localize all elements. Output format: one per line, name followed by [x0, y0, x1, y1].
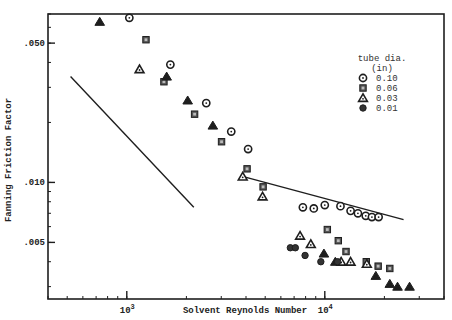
x-axis-title: Solvent Reynolds Number: [183, 306, 307, 316]
filled-triangle-marker: [405, 282, 415, 290]
square-marker: [218, 139, 224, 145]
legend-label: 0.03: [376, 94, 398, 104]
filled-triangle-marker: [319, 249, 329, 257]
filled-triangle-marker: [385, 279, 395, 287]
filled-triangle-marker: [371, 271, 381, 279]
open-triangle-marker: [135, 65, 144, 73]
open-triangle-marker: [238, 172, 247, 180]
filled-triangle-marker: [183, 96, 193, 104]
open-triangle-marker: [258, 192, 267, 200]
y-axis-title: Fanning Friction Factor: [4, 98, 14, 222]
open-circle-marker: [347, 207, 354, 214]
filled-triangle-marker: [95, 17, 105, 25]
series-open-triangle: [135, 65, 371, 267]
square-marker: [143, 37, 149, 43]
legend-label: 0.10: [376, 74, 398, 84]
reference-lines: [71, 76, 404, 219]
y-axis: .050.010.005: [23, 14, 55, 287]
filled-triangle-marker: [162, 72, 172, 80]
open-circle-marker: [126, 14, 133, 21]
open-circle-marker: [321, 201, 328, 208]
square-marker: [324, 226, 330, 232]
open-triangle-marker: [359, 94, 368, 102]
open-triangle-marker: [306, 240, 315, 248]
square-marker: [244, 166, 250, 172]
open-triangle-marker: [296, 232, 305, 240]
square-marker: [191, 111, 197, 117]
open-circle-marker: [228, 128, 235, 135]
open-circle-marker: [337, 203, 344, 210]
square-marker: [375, 263, 381, 269]
open-circle-marker: [203, 100, 210, 107]
legend-label: 0.01: [376, 104, 398, 114]
series-open-circle: [126, 14, 382, 220]
open-circle-marker: [299, 204, 306, 211]
open-circle-marker: [167, 61, 174, 68]
legend: tube dia. (in) 0.100.060.030.01: [358, 54, 407, 114]
square-marker: [343, 248, 349, 254]
square-marker: [260, 184, 266, 190]
filled-circle-marker: [292, 245, 298, 251]
filled-triangle-marker: [208, 121, 218, 129]
open-circle-marker: [375, 213, 382, 220]
square-marker: [360, 85, 366, 91]
open-triangle-marker: [346, 258, 355, 266]
laminar-reference-line: [71, 76, 194, 207]
x-tick-label: 104: [318, 303, 333, 316]
legend-label: 0.06: [376, 84, 398, 94]
friction-factor-chart: .050.010.005 103104 Fanning Friction Fac…: [0, 0, 452, 320]
square-marker: [335, 237, 341, 243]
y-tick-label: .050: [23, 39, 45, 49]
filled-circle-marker: [302, 252, 308, 258]
open-circle-marker: [354, 210, 361, 217]
square-marker: [387, 265, 393, 271]
legend-title: tube dia.: [358, 54, 407, 64]
open-circle-marker: [310, 205, 317, 212]
legend-subtitle: (in): [371, 64, 393, 74]
open-circle-marker: [245, 145, 252, 152]
y-tick-label: .005: [23, 238, 45, 248]
filled-circle-marker: [334, 259, 340, 265]
y-tick-label: .010: [23, 178, 45, 188]
filled-circle-marker: [318, 259, 324, 265]
filled-circle-marker: [360, 105, 366, 111]
open-circle-marker: [359, 74, 366, 81]
x-tick-label: 103: [120, 303, 135, 316]
series-square: [143, 37, 393, 272]
